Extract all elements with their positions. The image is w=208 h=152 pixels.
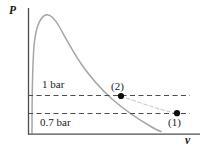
pressure-label-upper: 1 bar [42,79,64,90]
pv-diagram-canvas [0,0,208,152]
state-point-2-marker [118,93,124,99]
state-label-1: (1) [168,117,181,128]
process-path-2-to-1 [121,96,177,113]
pressure-label-lower: 0.7 bar [40,117,71,128]
state-label-2: (2) [111,81,124,92]
pv-diagram-figure: P v 1 bar 0.7 bar (2) (1) [0,0,208,152]
y-axis-label: P [9,5,16,17]
x-axis-label: v [185,135,190,147]
